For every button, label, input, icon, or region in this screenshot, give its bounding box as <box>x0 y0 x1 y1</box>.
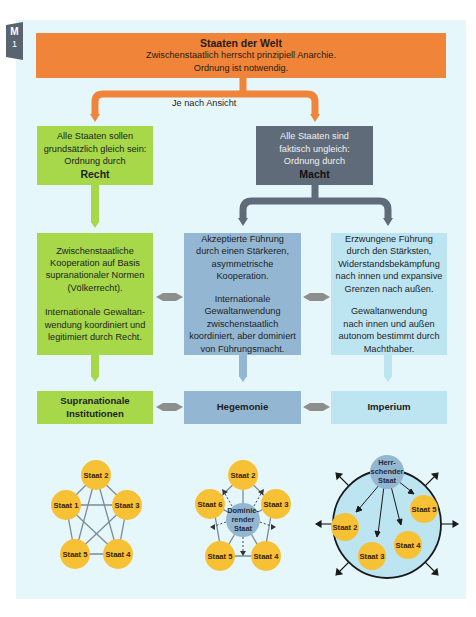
text-line: render <box>231 515 254 524</box>
text-line: Gewaltanwendung <box>351 305 427 317</box>
text-line: nach innen und außen <box>343 318 434 330</box>
text-line: Gewaltanwendung <box>204 305 280 317</box>
top-title: Staaten der Welt <box>200 37 282 49</box>
text-line: von Führungsmacht. <box>201 343 285 355</box>
text-line: koordiniert, aber dominiert <box>189 330 296 342</box>
text-line: grundsätzlich gleich sein: <box>44 143 147 155</box>
text-line: Supranationale <box>60 395 129 407</box>
text-line: legitimiert durch Recht. <box>48 331 142 343</box>
text-line: Alle Staaten sind <box>280 130 349 142</box>
top-line-2: Ordnung ist notwendig. <box>194 62 289 74</box>
node-label: Staat 3 <box>115 501 140 510</box>
text-line: Staat 2 <box>231 471 256 480</box>
text-line: Kooperation auf Basis <box>50 257 140 269</box>
text-line: Alle Staaten sollen <box>57 130 133 142</box>
text-line: Staat 5 <box>208 552 234 561</box>
text-line: asymmetrische <box>212 258 274 270</box>
text-line: Kooperation. <box>216 270 268 282</box>
text-line: Ordnung durch <box>64 155 125 167</box>
text-line: Grenzen nach außen. <box>345 283 434 295</box>
network-equal: Staat 2 Staat 1 Staat 3 Staat 4 Staat 5 <box>51 460 142 569</box>
text-line: Akzeptierte Führung <box>201 233 284 245</box>
text-line: zwischenstaatlich <box>207 318 279 330</box>
orange-bracket <box>95 78 315 116</box>
text-line: Herr- <box>378 458 396 467</box>
branch-label: Je nach Ansicht <box>172 98 236 108</box>
text-line: Staat 3 <box>360 552 385 561</box>
power-view-box: Alle Staaten sind faktisch ungleich: Ord… <box>256 126 373 185</box>
states-of-world-box: Staaten der Welt Zwischenstaatlich herrs… <box>36 33 446 78</box>
text-line: Widerstandsbekämpfung <box>338 258 440 270</box>
text-line: wendung koordiniert und <box>45 319 146 331</box>
node-label: Staat 4 <box>106 550 132 559</box>
column-empire-description: Erzwungene Führungdurch den Stärksten, W… <box>331 233 447 355</box>
result-empire: Imperium <box>331 391 447 424</box>
column-hegemony-description: Akzeptierte Führungdurch einen Stärkeren… <box>184 233 301 355</box>
text-line: Zwischenstaatliche <box>56 245 134 257</box>
text-line: Staat <box>378 476 397 485</box>
green-stem <box>91 185 99 223</box>
key-term-macht: Macht <box>299 168 329 180</box>
text-line: Machthaber. <box>364 343 415 355</box>
text-line: Staat 2 <box>333 523 358 532</box>
key-term-recht: Recht <box>80 168 109 180</box>
network-hegemony: Dominie- render Staat Staat 2 Staat 3 St… <box>195 460 291 571</box>
text-line: Staat 4 <box>396 541 422 550</box>
node-label: Staat 2 <box>84 471 109 480</box>
text-line: Internationale <box>215 293 271 305</box>
text-line: Staat 4 <box>254 552 280 561</box>
text-line: supranationaler Normen <box>46 269 145 281</box>
network-empire: Herr- schender Staat Staat 2 Staat 3 Sta… <box>316 455 458 578</box>
text-line: Institutionen <box>66 408 124 420</box>
law-view-box: Alle Staaten sollen grundsätzlich gleich… <box>37 126 153 185</box>
result-hegemony: Hegemonie <box>184 391 301 424</box>
text-line: faktisch ungleich: <box>279 143 349 155</box>
text-line: durch einen Stärkeren, <box>196 245 289 257</box>
text-line: Internationale Gewaltan- <box>45 306 145 318</box>
text-line: Staat 3 <box>264 500 289 509</box>
text-line: Staat <box>234 524 253 533</box>
text-line: Staat 6 <box>198 500 223 509</box>
column-law-description: ZwischenstaatlicheKooperation auf Basis … <box>37 233 153 355</box>
text-line: (Völkerrecht). <box>67 282 122 294</box>
text-line: Ordnung durch <box>284 155 345 167</box>
text-line: autonom bestimmt durch <box>338 330 439 342</box>
text-line: durch den Stärksten, <box>347 245 432 257</box>
text-line: schender <box>371 467 404 476</box>
text-line: Imperium <box>367 401 410 413</box>
text-line: nach innen und expansive <box>336 270 443 282</box>
top-line-1: Zwischenstaatlich herrscht prinzipiell A… <box>146 49 336 61</box>
text-line: Dominie- <box>227 506 259 515</box>
node-label: Staat 5 <box>63 550 89 559</box>
text-line: Erzwungene Führung <box>345 233 433 245</box>
result-supranational-institutions: SupranationaleInstitutionen <box>37 391 153 424</box>
node-label: Staat 1 <box>54 501 80 510</box>
dark-bracket <box>243 184 388 220</box>
text-line: Hegemonie <box>217 401 269 413</box>
text-line: Staat 5 <box>412 505 438 514</box>
